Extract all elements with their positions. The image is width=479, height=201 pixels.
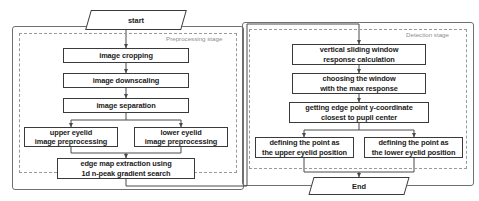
- node-vertical-sliding-window: vertical sliding window response calcula…: [292, 44, 426, 65]
- node-image-separation: image separation: [63, 98, 189, 113]
- end-label: End: [352, 182, 366, 191]
- node-edge-map-extraction: edge map extraction using 1d n-peak grad…: [57, 158, 195, 179]
- detection-stage-label: Detection stage: [406, 31, 449, 38]
- node-choosing-max-window: choosing the window with the max respons…: [292, 73, 426, 94]
- node-define-upper-eyelid-label: defining the point as the upper eyelid p…: [260, 138, 349, 157]
- node-image-cropping-label: image cropping: [97, 51, 155, 60]
- node-define-upper-eyelid: defining the point as the upper eyelid p…: [255, 137, 354, 158]
- node-define-lower-eyelid-label: defining the point as the lower eyelid p…: [370, 138, 458, 157]
- start-label: start: [128, 16, 144, 25]
- node-edge-map-extraction-label: edge map extraction using 1d n-peak grad…: [78, 159, 173, 178]
- preprocessing-stage-label: Preprocessing stage: [166, 35, 222, 42]
- flowchart-diagram: Preprocessing stage Detection stage: [0, 0, 479, 201]
- node-image-downscaling-label: image downscaling: [91, 76, 161, 85]
- node-choosing-max-window-label: choosing the window with the max respons…: [318, 74, 400, 93]
- node-vertical-sliding-window-label: vertical sliding window response calcula…: [318, 45, 401, 64]
- node-lower-eyelid-preprocessing-label: lower eyelid image preprocessing: [143, 128, 219, 147]
- node-lower-eyelid-preprocessing: lower eyelid image preprocessing: [134, 127, 228, 147]
- node-image-separation-label: image separation: [94, 101, 157, 110]
- node-upper-eyelid-preprocessing: upper eyelid image preprocessing: [24, 127, 118, 147]
- node-upper-eyelid-preprocessing-label: upper eyelid image preprocessing: [33, 128, 109, 147]
- start-terminator: start: [88, 10, 184, 30]
- node-define-lower-eyelid: defining the point as the lower eyelid p…: [364, 137, 463, 158]
- node-image-downscaling: image downscaling: [63, 73, 189, 88]
- node-edge-point-y-coordinate: getting edge point y-coordinate closest …: [289, 102, 429, 123]
- node-image-cropping: image cropping: [63, 48, 189, 63]
- node-edge-point-y-coordinate-label: getting edge point y-coordinate closest …: [303, 103, 414, 122]
- end-terminator: End: [311, 177, 407, 195]
